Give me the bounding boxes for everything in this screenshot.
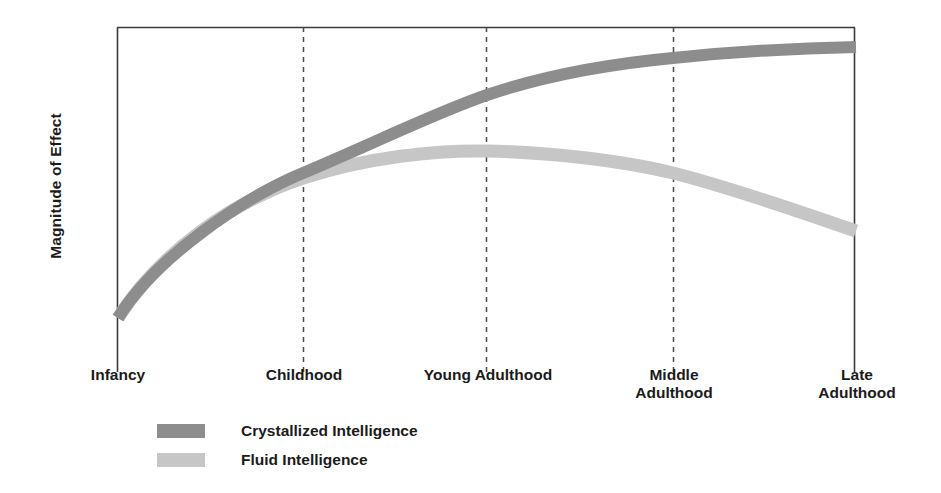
- gridlines: [304, 27, 674, 372]
- legend-swatch-crystallized: [157, 424, 205, 438]
- x-tick-label-young-adulthood: Young Adulthood: [400, 366, 576, 384]
- chart-figure: Magnitude of Effect Infancy Childhood Yo…: [0, 0, 941, 493]
- x-tick-label-middle-adulthood: Middle Adulthood: [609, 366, 739, 403]
- legend-label-fluid: Fluid Intelligence: [241, 451, 368, 469]
- legend-item-fluid-intelligence: Fluid Intelligence: [157, 445, 418, 474]
- legend-item-crystallized-intelligence: Crystallized Intelligence: [157, 416, 418, 445]
- plot-area: [0, 0, 941, 493]
- legend-label-crystallized: Crystallized Intelligence: [241, 422, 418, 440]
- series-line-fluid-intelligence: [118, 151, 856, 318]
- legend: Crystallized Intelligence Fluid Intellig…: [157, 416, 418, 474]
- x-tick-label-childhood: Childhood: [238, 366, 370, 384]
- x-tick-label-late-adulthood: Late Adulthood: [792, 366, 922, 403]
- legend-swatch-fluid: [157, 453, 205, 467]
- x-tick-label-infancy: Infancy: [52, 366, 184, 384]
